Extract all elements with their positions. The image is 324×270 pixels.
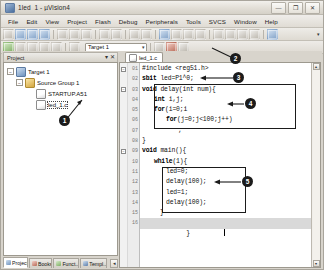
menu-project[interactable]: Project <box>63 18 91 25</box>
navigate-back-icon[interactable] <box>129 29 140 40</box>
menu-peripherals[interactable]: Peripherals <box>141 18 181 25</box>
indent-icon[interactable] <box>213 29 224 40</box>
cut-icon[interactable] <box>57 29 68 40</box>
tab-functions[interactable]: Funct... <box>53 258 79 268</box>
code-block-delay-function-box <box>154 84 296 129</box>
tree-node-label: STARTUP.A51 <box>48 91 87 97</box>
fold-marker-5 <box>120 105 127 115</box>
line-number: 14 <box>128 198 139 208</box>
bookmark-toggle-icon[interactable] <box>159 29 170 40</box>
code-line-1[interactable]: #include <reg51.h> <box>140 64 311 74</box>
menu-file[interactable]: File <box>4 18 22 25</box>
menu-debug[interactable]: Debug <box>115 18 142 25</box>
code-line-9[interactable]: void main(){ <box>140 146 311 156</box>
bookmark-clear-icon[interactable] <box>195 29 206 40</box>
toolbar-separator <box>263 30 264 39</box>
line-number: 01 <box>128 64 139 74</box>
fold-collapse-icon[interactable]: − <box>121 67 126 72</box>
toolbar-overflow-button[interactable]: ▾ <box>317 31 323 37</box>
annotation-marker-2: 2 <box>230 53 241 64</box>
fold-marker-3[interactable]: − <box>120 85 127 95</box>
navigate-forward-icon[interactable] <box>141 29 152 40</box>
panel-close-icon[interactable]: ✕ <box>110 55 115 61</box>
chevron-down-icon[interactable]: ▾ <box>142 45 145 50</box>
toolbar-separator <box>155 30 156 39</box>
menu-flash[interactable]: Flash <box>91 18 115 25</box>
minimize-button[interactable]: — <box>271 2 286 14</box>
find-icon[interactable] <box>267 29 278 40</box>
annotation-marker-1: 1 <box>59 115 70 126</box>
toolbar-separator <box>125 30 126 39</box>
tree-node-startup-a51[interactable]: STARTUP.A51 <box>4 88 117 99</box>
comment-icon[interactable] <box>237 29 248 40</box>
save-all-icon[interactable] <box>39 29 50 40</box>
editor-panel: led_1.c − − − 01 <box>119 51 322 268</box>
scroll-track[interactable] <box>313 70 320 260</box>
close-button[interactable]: ✕ <box>305 2 320 14</box>
toolbar-separator <box>53 30 54 39</box>
scroll-down-arrow-icon[interactable]: ▾ <box>313 260 320 267</box>
window-title: 1led_1 - µVision4 <box>18 4 271 11</box>
menu-view[interactable]: View <box>41 18 63 25</box>
tree-node-led-1-c[interactable]: led_1.c <box>4 99 117 110</box>
menu-edit[interactable]: Edit <box>22 18 41 25</box>
menu-tools[interactable]: Tools <box>182 18 205 25</box>
editor-vertical-scrollbar[interactable]: ▴ ▾ <box>311 63 320 267</box>
annotation-marker-5: 5 <box>242 176 253 187</box>
fold-marker-8 <box>120 136 127 146</box>
maximize-button[interactable]: ❐ <box>288 2 303 14</box>
menu-svcs[interactable]: SVCS <box>205 18 230 25</box>
annotation-marker-3: 3 <box>233 72 244 83</box>
line-number: 02 <box>128 74 139 84</box>
tab-project[interactable]: Project <box>3 257 28 268</box>
scroll-up-arrow-icon[interactable]: ▴ <box>313 63 320 70</box>
fold-collapse-icon[interactable]: − <box>121 149 126 154</box>
fold-margin[interactable]: − − − <box>120 63 128 267</box>
panel-menu-icon[interactable]: ▾ <box>105 55 108 61</box>
fold-marker-6 <box>120 115 127 125</box>
target-icon <box>16 67 26 77</box>
code-line-10[interactable]: while(1){ <box>140 157 311 167</box>
panel-hscroll-left-arrow[interactable]: ◂ <box>110 259 118 268</box>
tree-node-label: led_1.c <box>48 102 67 108</box>
undo-icon[interactable] <box>99 29 110 40</box>
line-number-gutter: 01 02 03 04 05 06 07 08 09 10 11 12 13 1… <box>128 63 140 267</box>
tab-templates[interactable]: Templ... <box>80 258 107 268</box>
tree-node-target-1[interactable]: − Target 1 <box>4 66 117 77</box>
save-file-icon[interactable] <box>27 29 38 40</box>
open-file-icon[interactable] <box>15 29 26 40</box>
bookmark-prev-icon[interactable] <box>171 29 182 40</box>
menu-help[interactable]: Help <box>261 18 282 25</box>
code-block-while-body-box <box>162 167 246 213</box>
bookmark-next-icon[interactable] <box>183 29 194 40</box>
code-line-8[interactable]: } <box>140 136 311 146</box>
tree-node-label: Source Group 1 <box>37 80 79 86</box>
tree-node-label: Target 1 <box>28 69 50 75</box>
line-number: 07 <box>128 126 139 136</box>
expander-icon[interactable]: − <box>16 79 23 86</box>
tab-label: Books <box>38 261 52 267</box>
fold-marker-1[interactable]: − <box>120 64 127 74</box>
outdent-icon[interactable] <box>225 29 236 40</box>
code-text-area[interactable]: #include <reg51.h> sbit led=P1^0; void d… <box>140 63 311 267</box>
new-file-icon[interactable] <box>3 29 14 40</box>
expander-icon[interactable]: − <box>7 68 14 75</box>
project-tree[interactable]: − Target 1 − Source Group 1 STARTUP.A51 <box>3 62 118 256</box>
uncomment-icon[interactable] <box>249 29 260 40</box>
fold-collapse-icon[interactable]: − <box>121 87 126 92</box>
code-line-16[interactable]: } <box>140 218 311 228</box>
tree-node-source-group-1[interactable]: − Source Group 1 <box>4 77 117 88</box>
code-editor[interactable]: − − − 01 02 03 04 05 06 <box>119 63 321 268</box>
copy-icon[interactable] <box>69 29 80 40</box>
editor-tab-label: led_1.c <box>139 55 157 61</box>
expander-placeholder <box>27 90 34 97</box>
uvision-ide-window: 1led_1 - µVision4 — ❐ ✕ File Edit View P… <box>0 0 324 270</box>
tab-books[interactable]: Books <box>29 258 52 268</box>
line-number: 13 <box>128 188 139 198</box>
fold-marker-9[interactable]: − <box>120 146 127 156</box>
editor-tab-led-1-c[interactable]: led_1.c <box>125 52 163 62</box>
menu-window[interactable]: Window <box>230 18 261 25</box>
paste-icon[interactable] <box>81 29 92 40</box>
redo-icon[interactable] <box>111 29 122 40</box>
uvision-app-icon <box>5 3 15 13</box>
